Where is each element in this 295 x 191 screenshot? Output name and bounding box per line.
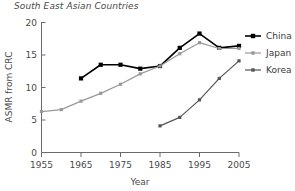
x-tick-label-1955: 1955 xyxy=(30,160,53,170)
data-point-marker xyxy=(237,47,240,50)
y-tick-label-10: 10 xyxy=(26,83,38,93)
x-axis-title: Year xyxy=(129,177,149,187)
series-korea xyxy=(158,59,240,127)
data-point-marker xyxy=(198,98,201,101)
y-axis-ticks xyxy=(42,23,46,153)
data-point-marker xyxy=(218,77,221,80)
series-layer xyxy=(40,31,241,127)
data-point-marker xyxy=(197,31,201,35)
data-point-marker xyxy=(79,76,83,80)
series-line-china xyxy=(81,34,239,79)
series-japan xyxy=(40,41,241,113)
x-tick-label-1995: 1995 xyxy=(188,160,211,170)
series-china xyxy=(79,31,241,80)
y-tick-label-20: 20 xyxy=(26,18,38,28)
legend-swatch-marker xyxy=(251,34,255,38)
data-point-marker xyxy=(139,72,142,75)
line-chart-plot: 0 5 10 15 20 1955 1965 1975 1985 1995 20… xyxy=(0,0,295,191)
legend-item-china[interactable]: China xyxy=(245,31,292,41)
series-line-korea xyxy=(160,61,239,126)
y-tick-label-0: 0 xyxy=(31,148,37,158)
data-point-marker xyxy=(218,47,221,50)
data-point-marker xyxy=(99,63,103,67)
x-tick-label-2005: 2005 xyxy=(228,160,251,170)
data-point-marker xyxy=(60,108,63,111)
y-tick-label-5: 5 xyxy=(31,115,37,125)
legend-label-japan: Japan xyxy=(265,48,291,58)
y-tick-label-15: 15 xyxy=(26,50,37,60)
legend-swatch-marker xyxy=(251,68,254,71)
x-tick-label-1975: 1975 xyxy=(109,160,132,170)
data-point-marker xyxy=(178,46,182,50)
legend-item-japan[interactable]: Japan xyxy=(245,48,291,58)
data-point-marker xyxy=(99,92,102,95)
legend-label-korea: Korea xyxy=(266,65,292,75)
data-point-marker xyxy=(237,59,240,62)
legend-item-korea[interactable]: Korea xyxy=(245,65,292,75)
data-point-marker xyxy=(158,64,161,67)
x-tick-label-1985: 1985 xyxy=(149,160,172,170)
data-point-marker xyxy=(158,124,161,127)
data-point-marker xyxy=(40,110,43,113)
series-line-japan xyxy=(42,43,240,112)
data-point-marker xyxy=(178,52,181,55)
data-point-marker xyxy=(119,83,122,86)
legend-label-china: China xyxy=(266,31,292,41)
chart-figure: South East Asian Countries 0 5 10 15 20 xyxy=(0,0,295,191)
chart-legend: ChinaJapanKorea xyxy=(245,31,292,75)
data-point-marker xyxy=(118,63,122,67)
x-axis-ticks xyxy=(42,153,240,158)
legend-swatch-marker xyxy=(251,51,254,54)
x-tick-label-1965: 1965 xyxy=(70,160,93,170)
data-point-marker xyxy=(79,100,82,103)
data-point-marker xyxy=(198,41,201,44)
y-axis-title: ASMR from CRC xyxy=(4,52,14,123)
data-point-marker xyxy=(138,67,142,71)
data-point-marker xyxy=(178,116,181,119)
